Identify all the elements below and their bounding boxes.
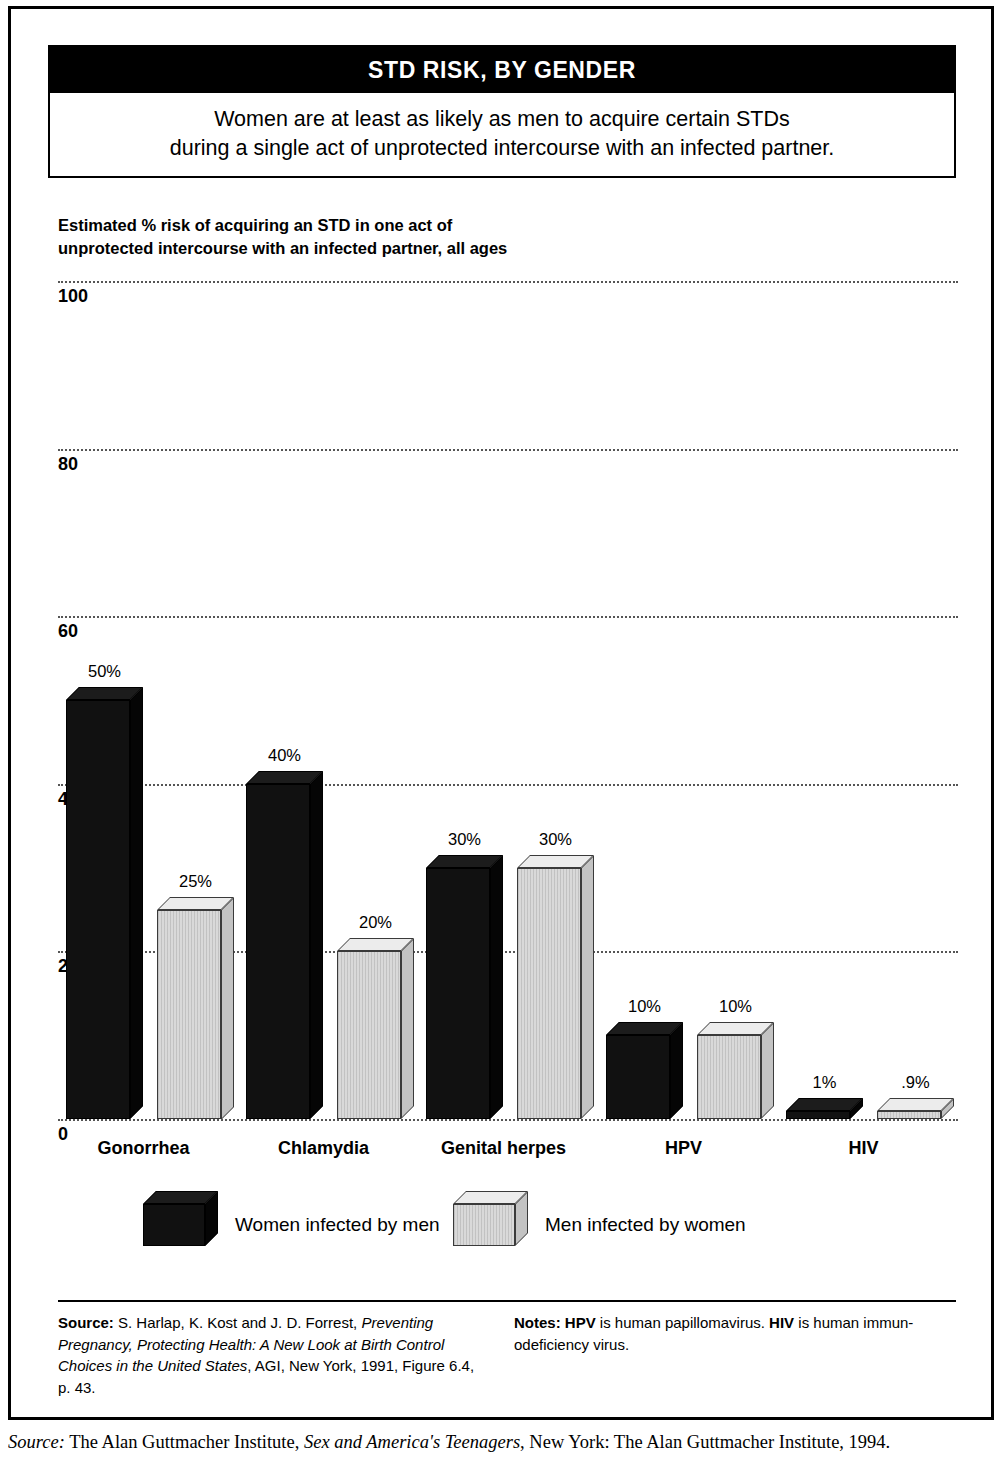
notes-text-2: is human papillomavirus. bbox=[596, 1314, 769, 1331]
bar-front-face bbox=[877, 1111, 941, 1119]
chart-plot-area: 020406080100 50%25%40%20%30%30%10%10%1%.… bbox=[58, 281, 958, 1126]
footer-source: Source: S. Harlap, K. Kost and J. D. For… bbox=[58, 1312, 488, 1398]
bar-value-label: 10% bbox=[690, 998, 782, 1015]
bar-top-face bbox=[877, 1098, 954, 1111]
page-caption: Source: The Alan Guttmacher Institute, S… bbox=[8, 1432, 1004, 1453]
bar-top-face bbox=[66, 687, 143, 700]
bar-side-face bbox=[761, 1022, 774, 1119]
title-block: STD RISK, BY GENDER Women are at least a… bbox=[48, 45, 956, 178]
bar-value-label: 30% bbox=[419, 831, 511, 848]
bar-top-face bbox=[426, 855, 503, 868]
bar-front-face bbox=[246, 784, 310, 1119]
source-label: Source: bbox=[58, 1314, 114, 1331]
bar-front-face bbox=[426, 868, 490, 1119]
bar-hpv-men bbox=[697, 1035, 761, 1119]
bar-top-face bbox=[517, 855, 594, 868]
page-caption-label: Source: bbox=[8, 1432, 65, 1452]
bar-side-face bbox=[221, 897, 234, 1120]
category-label-hpv: HPV bbox=[586, 1139, 781, 1157]
legend-swatch-front-face bbox=[143, 1204, 205, 1246]
bar-front-face bbox=[337, 951, 401, 1119]
bar-value-label: 1% bbox=[779, 1074, 871, 1091]
bar-value-label: 30% bbox=[510, 831, 602, 848]
page-caption-text-1: The Alan Guttmacher Institute, bbox=[65, 1432, 304, 1452]
bar-value-label: .9% bbox=[870, 1074, 962, 1091]
notes-term-hpv: HPV bbox=[565, 1314, 596, 1331]
bar-value-label: 20% bbox=[330, 914, 422, 931]
bar-front-face bbox=[606, 1035, 670, 1119]
footer: Source: S. Harlap, K. Kost and J. D. For… bbox=[58, 1312, 956, 1398]
legend-item-women: Women infected by men bbox=[143, 1204, 440, 1246]
bar-gonorrhea-men bbox=[157, 910, 221, 1120]
notes-term-hiv: HIV bbox=[769, 1314, 794, 1331]
bar-side-face bbox=[310, 771, 323, 1119]
legend-label: Men infected by women bbox=[545, 1214, 746, 1236]
y-axis-caption-line-1: Estimated % risk of acquiring an STD in … bbox=[58, 214, 678, 237]
bar-chlamydia-men bbox=[337, 951, 401, 1119]
bars-layer: 50%25%40%20%30%30%10%10%1%.9% bbox=[58, 281, 958, 1126]
bar-side-face bbox=[581, 855, 594, 1119]
bar-chlamydia-women bbox=[246, 784, 310, 1119]
figure-frame: STD RISK, BY GENDER Women are at least a… bbox=[8, 6, 994, 1420]
source-text-1: S. Harlap, K. Kost and J. D. Forrest, bbox=[114, 1314, 362, 1331]
legend-swatch-icon bbox=[143, 1204, 205, 1246]
bar-value-label: 40% bbox=[239, 747, 331, 764]
page-title: STD RISK, BY GENDER bbox=[50, 47, 954, 93]
legend-label: Women infected by men bbox=[235, 1214, 440, 1236]
bar-hpv-women bbox=[606, 1035, 670, 1119]
bar-genital-herpes-women bbox=[426, 868, 490, 1119]
category-label-chlamydia: Chlamydia bbox=[226, 1139, 421, 1157]
page-caption-title-italic: Sex and America's Teenagers bbox=[304, 1432, 520, 1452]
bar-hiv-women bbox=[786, 1111, 850, 1119]
bar-genital-herpes-men bbox=[517, 868, 581, 1119]
bar-top-face bbox=[246, 771, 323, 784]
category-label-genital-herpes: Genital herpes bbox=[406, 1139, 601, 1157]
bar-top-face bbox=[337, 938, 414, 951]
bar-gonorrhea-women bbox=[66, 700, 130, 1119]
legend-swatch-icon bbox=[453, 1204, 515, 1246]
bar-top-face bbox=[697, 1022, 774, 1035]
bar-front-face bbox=[786, 1111, 850, 1119]
bar-side-face bbox=[490, 855, 503, 1119]
bar-hiv-men bbox=[877, 1111, 941, 1119]
bar-value-label: 10% bbox=[599, 998, 691, 1015]
bar-top-face bbox=[786, 1098, 863, 1111]
bar-top-face bbox=[606, 1022, 683, 1035]
legend-swatch-front-face bbox=[453, 1204, 515, 1246]
bar-front-face bbox=[517, 868, 581, 1119]
y-axis-caption-line-2: unprotected intercourse with an infected… bbox=[58, 237, 678, 260]
legend-item-men: Men infected by women bbox=[453, 1204, 746, 1246]
bar-front-face bbox=[697, 1035, 761, 1119]
footer-divider bbox=[58, 1300, 956, 1302]
bar-front-face bbox=[157, 910, 221, 1120]
bar-side-face bbox=[401, 938, 414, 1119]
subtitle-line-1: Women are at least as likely as men to a… bbox=[60, 105, 944, 133]
category-label-gonorrhea: Gonorrhea bbox=[46, 1139, 241, 1157]
category-label-hiv: HIV bbox=[766, 1139, 961, 1157]
chart-legend: Women infected by menMen infected by wom… bbox=[58, 1194, 958, 1274]
bar-side-face bbox=[130, 687, 143, 1119]
y-axis-caption: Estimated % risk of acquiring an STD in … bbox=[58, 214, 678, 261]
legend-swatch-top-face bbox=[453, 1191, 528, 1204]
subtitle-box: Women are at least as likely as men to a… bbox=[50, 93, 954, 176]
notes-label: Notes: bbox=[514, 1314, 561, 1331]
legend-swatch-top-face bbox=[143, 1191, 218, 1204]
bar-value-label: 50% bbox=[59, 663, 151, 680]
bar-front-face bbox=[66, 700, 130, 1119]
subtitle-line-2: during a single act of unprotected inter… bbox=[60, 134, 944, 162]
bar-top-face bbox=[157, 897, 234, 910]
bar-side-face bbox=[670, 1022, 683, 1119]
bar-value-label: 25% bbox=[150, 873, 242, 890]
footer-notes: Notes: HPV is human papillomavirus. HIV … bbox=[514, 1312, 944, 1398]
page-caption-text-2: , New York: The Alan Guttmacher Institut… bbox=[520, 1432, 890, 1452]
